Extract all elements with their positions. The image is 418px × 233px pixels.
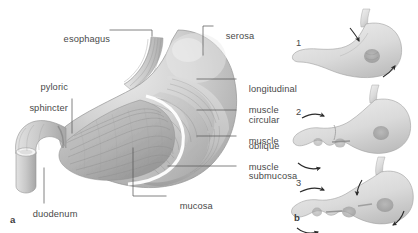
peristalsis-stage-2-art — [293, 85, 411, 169]
panel-letter-b-text: b — [294, 212, 300, 223]
sequence-number-1: 1 — [296, 38, 301, 48]
label-circular-muscle-line1: circular — [249, 115, 280, 125]
label-mucosa: mucosa — [169, 191, 213, 222]
peristalsis-stage-1-art — [292, 9, 401, 78]
sequence-number-1-text: 1 — [296, 38, 301, 48]
panel-letter-a: a — [10, 214, 15, 225]
label-submucosa: submucosa — [238, 161, 297, 192]
label-duodenum: duodenum — [22, 199, 77, 230]
panel-letter-b: b — [294, 212, 300, 223]
label-serosa-text: serosa — [226, 31, 255, 41]
label-longitudinal-muscle-line1: longitudinal — [249, 84, 297, 94]
sequence-number-2-text: 2 — [296, 107, 301, 117]
sequence-number-2: 2 — [296, 107, 301, 117]
label-esophagus: esophagus — [10, 24, 110, 55]
sequence-number-3: 3 — [296, 178, 301, 188]
panel-letter-a-text: a — [10, 214, 15, 225]
label-mucosa-text: mucosa — [180, 201, 213, 211]
label-duodenum-text: duodenum — [33, 209, 78, 219]
label-serosa: serosa — [215, 21, 254, 52]
sequence-number-3-text: 3 — [296, 178, 301, 188]
label-submucosa-text: submucosa — [249, 171, 297, 181]
label-pyloric-sphincter-line1: pyloric — [40, 82, 68, 92]
label-pyloric-sphincter: pyloric sphincter — [4, 72, 68, 124]
figure-canvas: esophagus pyloric sphincter duodenum ser… — [0, 0, 418, 233]
label-pyloric-sphincter-line2: sphincter — [29, 103, 68, 113]
label-esophagus-text: esophagus — [64, 34, 110, 44]
label-oblique-muscle-line1: oblique — [249, 141, 280, 151]
